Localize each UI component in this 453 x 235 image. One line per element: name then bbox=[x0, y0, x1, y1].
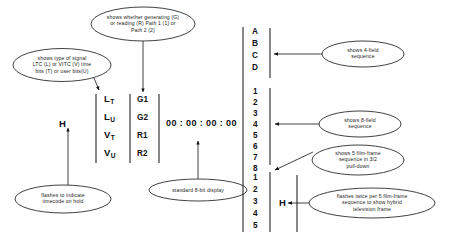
mode-label-0: G1 bbox=[137, 95, 148, 104]
four-field-label-0: A bbox=[252, 27, 258, 36]
signal-type-sub-3: U bbox=[111, 152, 116, 159]
signal-type-row-0: LT bbox=[104, 93, 114, 104]
callout-ellipse-hybrid-frame bbox=[309, 188, 435, 218]
eight-field-label-1: 2 bbox=[253, 98, 258, 107]
mode-label-3: R2 bbox=[137, 149, 148, 158]
mode-label-2: R1 bbox=[137, 131, 148, 140]
callout-ellipse-signal-type bbox=[13, 49, 111, 82]
film-frame-label-2: 3 bbox=[253, 197, 258, 206]
film-frame-label-1: 2 bbox=[253, 185, 258, 194]
callout-ellipse-four-field bbox=[322, 41, 404, 67]
four-field-label-2: C bbox=[252, 51, 258, 60]
hybrid-flag-label: H bbox=[279, 197, 286, 208]
signal-type-row-2: VT bbox=[104, 129, 115, 140]
hold-indicator-label: H bbox=[59, 118, 66, 129]
signal-type-sub-1: U bbox=[110, 116, 115, 123]
eight-field-label-6: 7 bbox=[253, 153, 258, 162]
film-frame-label-4: 5 bbox=[253, 221, 258, 230]
signal-type-sub-0: T bbox=[110, 98, 114, 105]
eight-field-label-3: 4 bbox=[253, 120, 258, 129]
callout-ellipse-hold-flash bbox=[15, 185, 111, 213]
eight-field-label-4: 5 bbox=[253, 131, 258, 140]
leader-film-frame bbox=[275, 152, 313, 170]
callout-ellipse-generating-reading bbox=[91, 7, 195, 41]
film-frame-label-3: 4 bbox=[253, 209, 258, 218]
eight-field-label-2: 3 bbox=[253, 109, 258, 118]
signal-type-row-3: VU bbox=[104, 147, 116, 158]
four-field-label-1: B bbox=[252, 39, 258, 48]
eight-field-label-7: 8 bbox=[253, 164, 258, 173]
eight-field-label-0: 1 bbox=[253, 87, 258, 96]
callout-ellipse-eight-bit-display bbox=[149, 179, 247, 201]
timecode-display: 00 : 00 : 00 : 00 bbox=[166, 118, 237, 128]
signal-type-row-1: LU bbox=[104, 111, 115, 122]
film-frame-label-0: 1 bbox=[253, 173, 258, 182]
leader-signal-type bbox=[94, 78, 99, 90]
callout-ellipse-film-frame bbox=[312, 145, 404, 175]
mode-label-1: G2 bbox=[137, 113, 148, 122]
eight-field-label-5: 6 bbox=[253, 142, 258, 151]
diagram-canvas: H LT LU VT VU G1 G2 R1 R2 00 : 00 : 00 :… bbox=[0, 0, 453, 235]
signal-type-sub-2: T bbox=[111, 134, 115, 141]
four-field-label-3: D bbox=[252, 63, 258, 72]
callout-ellipse-eight-field bbox=[319, 111, 401, 137]
signal-type-main-3: V bbox=[104, 147, 111, 158]
signal-type-main-2: V bbox=[104, 129, 111, 140]
